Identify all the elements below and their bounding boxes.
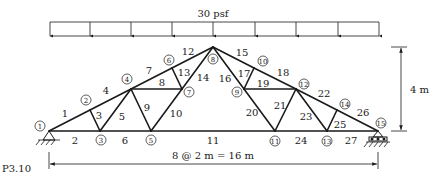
- node-label-7: 7: [184, 87, 194, 97]
- height-dimension-label: 4 m: [410, 84, 430, 95]
- member-4: [90, 89, 131, 110]
- member-label: 20: [246, 107, 259, 118]
- member-label: 7: [146, 65, 152, 76]
- member-label: 18: [277, 67, 290, 78]
- svg-text:10: 10: [259, 58, 268, 66]
- member-label: 16: [219, 73, 232, 84]
- node-labels: 123456789101112131415: [35, 54, 386, 146]
- member-label: 25: [334, 119, 347, 130]
- node-label-14: 14: [340, 99, 350, 109]
- svg-text:6: 6: [167, 57, 172, 65]
- member-label: 15: [236, 47, 249, 58]
- member-label: 26: [357, 107, 370, 118]
- member-label: 13: [178, 67, 191, 78]
- node-label-10: 10: [258, 56, 268, 66]
- roller-support-icon: [364, 131, 390, 147]
- node-label-4: 4: [122, 74, 132, 84]
- member-label: 19: [257, 78, 270, 89]
- svg-text:14: 14: [341, 101, 350, 109]
- node-label-8: 8: [208, 54, 218, 64]
- pin-support-icon: [36, 131, 60, 145]
- svg-text:15: 15: [377, 120, 386, 128]
- member-label: 23: [300, 111, 313, 122]
- member-label: 12: [182, 46, 195, 57]
- member-1: [49, 110, 90, 131]
- figure-label: P3.10: [2, 163, 31, 174]
- member-label: 5: [119, 111, 125, 122]
- svg-text:3: 3: [99, 137, 103, 145]
- node-label-15: 15: [376, 118, 386, 128]
- span-dimension: 8 @ 2 m = 16 m: [49, 150, 378, 169]
- member-label: 22: [318, 88, 331, 99]
- node-label-13: 13: [322, 136, 332, 146]
- member-label: 14: [197, 72, 210, 83]
- member-label: 8: [159, 77, 165, 88]
- svg-text:11: 11: [271, 138, 280, 146]
- node-label-2: 2: [81, 95, 91, 105]
- truss-diagram: 30 psf 123456789101112131415161718192021…: [0, 0, 437, 189]
- svg-text:13: 13: [323, 138, 332, 146]
- node-label-5: 5: [146, 135, 156, 145]
- svg-text:4: 4: [125, 76, 130, 84]
- node-label-9: 9: [232, 87, 242, 97]
- load-label: 30 psf: [197, 8, 229, 19]
- member-label: 21: [274, 100, 287, 111]
- svg-text:7: 7: [187, 89, 191, 97]
- member-label: 1: [62, 108, 68, 119]
- node-label-11: 11: [270, 136, 280, 146]
- member-label: 27: [345, 135, 358, 146]
- member-label: 10: [170, 108, 183, 119]
- node-label-3: 3: [96, 135, 106, 145]
- member-label: 24: [295, 135, 308, 146]
- svg-text:5: 5: [149, 137, 153, 145]
- member-label: 3: [96, 110, 102, 121]
- member-label: 4: [103, 85, 109, 96]
- member-label: 17: [238, 68, 251, 79]
- member-label: 6: [122, 135, 128, 146]
- svg-text:2: 2: [84, 97, 88, 105]
- node-label-6: 6: [164, 55, 174, 65]
- member-22: [296, 89, 337, 110]
- span-dimension-label: 8 @ 2 m = 16 m: [172, 150, 254, 161]
- height-dimension: 4 m: [391, 47, 430, 131]
- node-label-1: 1: [35, 121, 45, 131]
- svg-text:8: 8: [211, 56, 215, 64]
- member-label: 11: [207, 135, 220, 146]
- member-label: 9: [144, 102, 150, 113]
- member-label: 2: [72, 135, 78, 146]
- svg-text:9: 9: [235, 89, 239, 97]
- node-label-12: 12: [299, 79, 309, 89]
- svg-text:1: 1: [38, 123, 42, 131]
- svg-text:12: 12: [300, 81, 309, 89]
- distributed-load: 30 psf: [50, 8, 379, 36]
